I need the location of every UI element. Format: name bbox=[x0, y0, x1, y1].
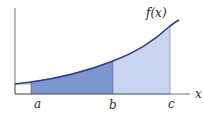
point-a-label: a bbox=[34, 97, 41, 111]
region-before-a bbox=[15, 84, 31, 94]
region-b-to-c bbox=[113, 26, 170, 94]
x-axis-label: x bbox=[195, 87, 202, 101]
function-label: f(x) bbox=[145, 6, 167, 20]
point-b-label: b bbox=[109, 98, 117, 112]
area-under-curve-diagram: f(x) x a b c bbox=[0, 0, 204, 115]
point-c-label: c bbox=[168, 97, 175, 111]
